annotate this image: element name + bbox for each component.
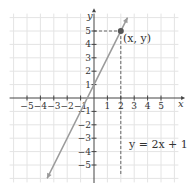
y-tick-label: 1: [85, 80, 91, 90]
x-axis-label: x: [178, 98, 184, 109]
x-tick-label: −3: [47, 101, 61, 111]
y-tick-label: −3: [78, 133, 92, 143]
x-tick-label: 5: [158, 101, 164, 111]
x-tick-label: −4: [34, 101, 48, 111]
coordinate-plane: −5−4−3−2−112345−5−4−3−2−112345 y x (x, y…: [0, 0, 193, 183]
point-label: (x, y): [123, 32, 151, 45]
y-tick-label: 4: [85, 39, 91, 49]
x-tick-label: −2: [61, 101, 74, 111]
axes: [10, 8, 186, 183]
x-tick-label: 3: [131, 101, 137, 111]
y-tick-label: −1: [78, 106, 91, 116]
y-tick-label: 5: [85, 26, 91, 36]
x-tick-label: 2: [118, 101, 124, 111]
y-axis-label: y: [86, 10, 93, 21]
y-tick-label: −4: [78, 147, 92, 157]
y-tick-label: −5: [78, 160, 92, 170]
x-tick-label: −5: [20, 101, 34, 111]
y-tick-label: 3: [85, 53, 91, 63]
x-tick-label: 4: [145, 101, 151, 111]
equation-label: y = 2x + 1: [128, 138, 188, 151]
x-tick-label: 1: [105, 101, 111, 111]
y-tick-label: −2: [78, 120, 91, 130]
y-tick-label: 2: [85, 66, 91, 76]
